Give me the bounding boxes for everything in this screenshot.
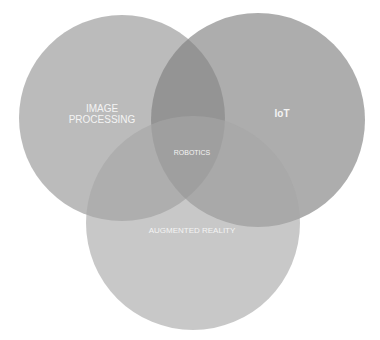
label-image-processing-line1: IMAGE [69,103,136,114]
label-image-processing: IMAGE PROCESSING [69,103,136,125]
label-robotics: ROBOTICS [174,149,211,157]
label-iot: IoT [275,108,290,119]
label-image-processing-line2: PROCESSING [69,114,136,125]
circle-augmented-reality [86,116,300,330]
venn-diagram [0,0,380,340]
label-augmented-reality: AUGMENTED REALITY [149,227,236,236]
